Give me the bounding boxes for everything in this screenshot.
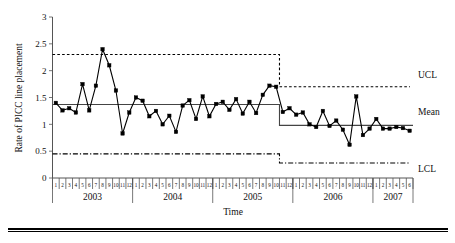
month-label: 9 — [348, 182, 351, 188]
data-point — [334, 119, 338, 123]
x-axis-year-labels: 20032004200520062007 — [83, 192, 403, 202]
month-label: 3 — [68, 182, 71, 188]
data-point — [268, 84, 272, 88]
data-point — [375, 117, 379, 121]
data-point — [61, 109, 64, 113]
data-point — [141, 99, 145, 103]
data-point — [241, 112, 245, 116]
data-point — [194, 117, 198, 121]
month-label: 3 — [228, 182, 231, 188]
data-point — [248, 100, 252, 104]
data-point — [121, 132, 125, 136]
month-label: 3 — [308, 182, 311, 188]
y-axis-tick-labels: 00.511.522.53 — [35, 12, 47, 183]
legend-label-ucl: UCL — [418, 70, 437, 80]
data-point — [134, 96, 138, 100]
year-label: 2007 — [383, 192, 402, 202]
month-label: 10 — [354, 182, 360, 188]
y-tick-label: 2.5 — [35, 39, 47, 49]
data-point — [174, 130, 178, 134]
y-tick-label: 2 — [42, 66, 47, 76]
data-point — [87, 109, 91, 113]
x-axis-title: Time — [223, 207, 243, 217]
data-point — [254, 111, 258, 115]
data-point — [74, 111, 78, 115]
year-label: 2005 — [243, 192, 262, 202]
month-label: 1 — [55, 182, 58, 188]
month-label: 9 — [268, 182, 271, 188]
month-label: 5 — [241, 182, 244, 188]
data-point — [181, 104, 185, 108]
data-point — [388, 127, 392, 131]
data-point — [94, 84, 98, 88]
month-label: 6 — [168, 182, 171, 188]
month-label: 11 — [280, 182, 285, 188]
data-point — [214, 102, 218, 106]
data-point — [201, 95, 205, 99]
month-label: 7 — [175, 182, 178, 188]
month-label: 6 — [88, 182, 91, 188]
chart-canvas: 00.511.522.53 12345678910111212345678910… — [0, 0, 455, 243]
month-label: 4 — [315, 182, 318, 188]
month-label: 1 — [215, 182, 218, 188]
data-point — [408, 129, 412, 133]
month-label: 1 — [135, 182, 138, 188]
y-tick-label: 0 — [42, 173, 47, 183]
month-label: 11 — [200, 182, 205, 188]
month-label: 1 — [375, 182, 378, 188]
data-point — [128, 111, 131, 115]
month-label: 11 — [120, 182, 125, 188]
month-label: 9 — [108, 182, 111, 188]
data-point — [228, 108, 232, 112]
data-point — [274, 85, 278, 89]
data-point — [114, 89, 118, 93]
legend-label-lcl: LCL — [418, 164, 436, 174]
month-label: 10 — [113, 182, 119, 188]
month-label: 8 — [261, 182, 264, 188]
data-point — [148, 115, 152, 119]
data-point — [161, 123, 165, 127]
y-tick-label: 0.5 — [35, 146, 47, 156]
year-label: 2006 — [323, 192, 342, 202]
data-point — [154, 109, 158, 113]
year-label: 2004 — [163, 192, 182, 202]
lcl-line — [53, 154, 411, 163]
data-point — [368, 127, 372, 131]
month-label: 2 — [302, 182, 305, 188]
data-point — [281, 110, 285, 114]
month-label: 9 — [188, 182, 191, 188]
data-point — [301, 111, 305, 115]
month-label: 5 — [81, 182, 84, 188]
data-point — [208, 115, 212, 119]
month-label: 11 — [360, 182, 365, 188]
data-point — [395, 125, 399, 128]
month-label: 12 — [287, 182, 293, 188]
spc-chart: 00.511.522.53 12345678910111212345678910… — [0, 0, 455, 243]
month-label: 12 — [127, 182, 133, 188]
month-label: 6 — [248, 182, 251, 188]
month-label: 10 — [193, 182, 199, 188]
data-point — [188, 98, 192, 102]
month-label: 5 — [161, 182, 164, 188]
month-label: 10 — [274, 182, 280, 188]
month-label: 4 — [235, 182, 238, 188]
footer-rule-thick — [8, 228, 448, 230]
data-point — [67, 106, 71, 110]
data-point — [168, 114, 172, 118]
data-point — [108, 64, 112, 68]
data-point — [101, 47, 105, 51]
y-tick-label: 1.5 — [35, 93, 47, 103]
month-label: 6 — [408, 182, 411, 188]
data-point — [294, 113, 298, 117]
x-axis-month-ticks — [53, 178, 414, 189]
data-point — [381, 127, 385, 131]
month-label: 2 — [382, 182, 385, 188]
month-label: 7 — [335, 182, 338, 188]
data-point — [341, 128, 345, 132]
month-label: 12 — [367, 182, 373, 188]
footer-rule-thin — [8, 231, 448, 232]
month-label: 3 — [148, 182, 151, 188]
month-label: 7 — [95, 182, 98, 188]
month-label: 12 — [207, 182, 213, 188]
data-point — [401, 126, 405, 130]
